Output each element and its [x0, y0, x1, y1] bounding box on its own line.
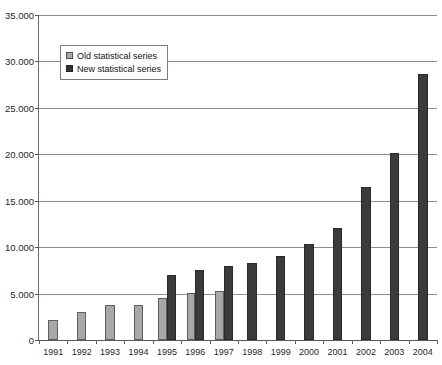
- x-tick-mark: [181, 340, 182, 344]
- x-tick-mark: [352, 340, 353, 344]
- x-tick-mark: [323, 340, 324, 344]
- bar-chart: 05.00010.00015.00020.00025.00030.00035.0…: [0, 0, 442, 365]
- bar-old-1992: [77, 312, 87, 340]
- bar-new-2003: [390, 153, 400, 340]
- x-tick-mark: [39, 340, 40, 344]
- bar-new-2000: [304, 244, 314, 340]
- x-tick-mark: [380, 340, 381, 344]
- y-tick-label: 0: [0, 335, 34, 346]
- bar-old-1994: [134, 305, 144, 340]
- y-tick-label: 25.000: [0, 102, 34, 113]
- legend-item-new: New statistical series: [66, 62, 161, 75]
- y-tick-label: 35.000: [0, 10, 34, 21]
- bar-old-1997: [215, 291, 224, 340]
- x-axis-labels: 1991199219931994199519961997199819992000…: [39, 340, 437, 365]
- bar-new-1999: [276, 256, 286, 341]
- bar-new-2001: [333, 228, 343, 340]
- x-tick-mark: [266, 340, 267, 344]
- y-tick-label: 15.000: [0, 195, 34, 206]
- bar-new-1997: [224, 266, 233, 340]
- bar-new-1996: [195, 270, 204, 340]
- y-tick-label: 30.000: [0, 56, 34, 67]
- bar-old-1996: [187, 293, 196, 340]
- legend-swatch-new-icon: [66, 65, 73, 72]
- bar-old-1995: [158, 298, 167, 340]
- x-tick-mark: [437, 340, 438, 344]
- x-tick-mark: [238, 340, 239, 344]
- y-tick-label: 20.000: [0, 149, 34, 160]
- chart-title: [0, 0, 442, 3]
- bar-new-2004: [418, 74, 428, 341]
- y-tick-label: 10.000: [0, 242, 34, 253]
- bar-new-1998: [247, 263, 257, 340]
- bar-old-1993: [105, 305, 115, 340]
- y-tick-label: 5.000: [0, 288, 34, 299]
- x-tick-mark: [124, 340, 125, 344]
- legend-label-old: Old statistical series: [77, 51, 157, 61]
- x-tick-mark: [153, 340, 154, 344]
- x-tick-mark: [409, 340, 410, 344]
- bar-new-1995: [167, 275, 176, 340]
- legend-label-new: New statistical series: [77, 64, 161, 74]
- x-tick-mark: [210, 340, 211, 344]
- bar-old-1991: [48, 320, 58, 340]
- x-tick-mark: [96, 340, 97, 344]
- x-tick-mark: [67, 340, 68, 344]
- chart-legend: Old statistical series New statistical s…: [60, 45, 168, 80]
- legend-swatch-old-icon: [66, 52, 73, 59]
- x-tick-mark: [295, 340, 296, 344]
- legend-item-old: Old statistical series: [66, 49, 161, 62]
- bar-new-2002: [361, 187, 371, 340]
- x-tick-label-2004: 2004: [403, 347, 442, 357]
